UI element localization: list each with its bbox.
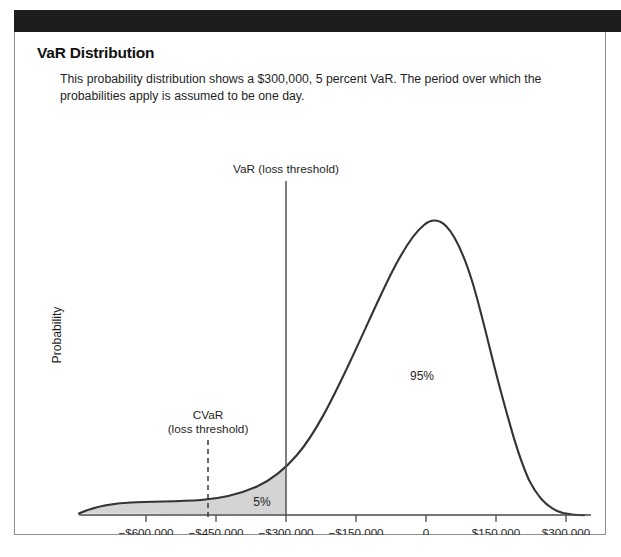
figure-description: This probability distribution shows a $3… <box>60 71 580 105</box>
x-tick-label-5: $150,000 <box>472 526 520 535</box>
y-axis-title: Probability <box>50 306 64 364</box>
var-threshold-label: VaR (loss threshold) <box>233 162 339 176</box>
x-tick-label-6: $300,000 <box>542 526 590 535</box>
x-tick-label-2: −$300,000 <box>258 526 313 535</box>
chart-plot-area: −$600,000 −$450,000 −$300,000 −$150,000 … <box>15 102 607 535</box>
x-tick-label-3: −$150,000 <box>328 526 383 535</box>
header-bar <box>14 10 621 32</box>
page-title: VaR Distribution <box>37 44 154 62</box>
x-tick-label-1: −$450,000 <box>188 526 243 535</box>
x-tick-label-0: −$600,000 <box>118 526 173 535</box>
figure-root: VaR Distribution This probability distri… <box>0 0 621 557</box>
cvar-threshold-label-line2: (loss threshold) <box>168 422 249 436</box>
figure-panel: VaR Distribution This probability distri… <box>14 32 606 535</box>
unshaded-region-percent-label: 95% <box>410 369 434 383</box>
shaded-region-percent-label: 5% <box>253 495 271 509</box>
x-tick-label-4: 0 <box>423 526 429 535</box>
distribution-curve <box>79 221 584 516</box>
cvar-threshold-label-line1: CVaR <box>193 408 224 422</box>
var-distribution-chart: −$600,000 −$450,000 −$300,000 −$150,000 … <box>15 102 607 535</box>
